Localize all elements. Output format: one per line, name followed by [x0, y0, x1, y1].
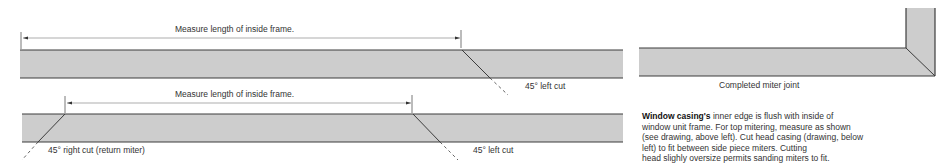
bottom-measure-label: Measure length of inside frame.: [175, 89, 294, 99]
completed-miter-joint: [639, 8, 935, 76]
bottom-left-cut-label: 45° left cut: [473, 145, 513, 155]
right-cut-label: 45° right cut (return miter): [48, 145, 145, 155]
top-left-cut-label: 45° left cut: [525, 81, 565, 91]
description-text: Window casing's inner edge is flush with…: [642, 111, 942, 164]
completed-joint-caption: Completed miter joint: [719, 80, 799, 90]
top-measure-label: Measure length of inside frame.: [175, 24, 294, 34]
description-title: Window casing's: [642, 111, 711, 121]
